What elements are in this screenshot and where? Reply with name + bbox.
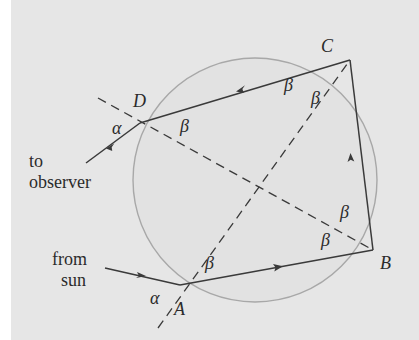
angle-beta-B1: β (339, 202, 349, 222)
point-label-D: D (132, 91, 146, 111)
angle-beta-C2: β (310, 88, 320, 108)
caption-sun: sun (61, 270, 86, 290)
caption-observer: observer (29, 172, 91, 192)
diagram-canvas: D C B A α β β β β β β α to observer from… (11, 0, 419, 340)
angle-beta-B2: β (320, 230, 330, 250)
angle-alpha-A: α (150, 288, 160, 308)
angle-beta-A: β (204, 253, 214, 273)
point-label-C: C (321, 36, 334, 56)
point-label-A: A (173, 299, 186, 319)
raindrop-diagram: D C B A α β β β β β β α to observer from… (11, 0, 419, 340)
angle-alpha-D: α (112, 118, 122, 138)
point-label-B: B (380, 253, 391, 273)
caption-to: to (29, 151, 43, 171)
raindrop-circle (133, 58, 377, 302)
angle-beta-D: β (179, 116, 189, 136)
angle-beta-C1: β (283, 75, 293, 95)
caption-from: from (52, 249, 87, 269)
